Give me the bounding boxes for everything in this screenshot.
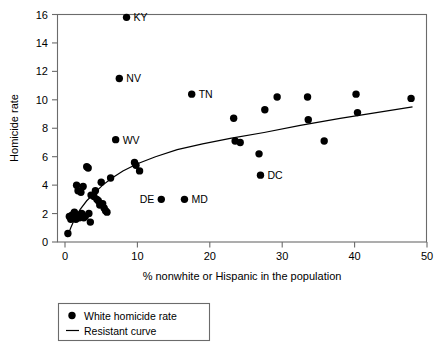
data-point [85,210,92,217]
legend-label-curve: Resistant curve [84,325,157,337]
point-label-tn: TN [199,88,213,100]
data-point [352,90,359,97]
data-point-nv [116,75,123,82]
x-tick-label: 30 [276,250,288,262]
x-tick-label: 20 [204,250,216,262]
x-tick-label: 40 [348,250,360,262]
chart-background [0,0,444,355]
legend: White homicide rate Resistant curve [59,304,210,341]
data-point [230,115,237,122]
data-point [92,187,99,194]
data-point [64,230,71,237]
data-point [107,174,114,181]
data-point [84,164,91,171]
y-tick-label: 8 [42,122,48,134]
y-tick-label: 2 [42,208,48,220]
point-label-dc: DC [267,169,283,181]
point-label-nv: NV [126,72,141,84]
y-tick-label: 6 [42,151,48,163]
chart-figure: 0246810121416 01020304050 Homicide rate … [0,0,444,355]
data-point [136,167,143,174]
data-point [87,218,94,225]
data-point [255,150,262,157]
data-point-wv [112,136,119,143]
scatter-plot: 0246810121416 01020304050 Homicide rate … [0,0,444,355]
point-label-wv: WV [123,134,140,146]
y-axis-title: Homicide rate [8,94,20,162]
data-point-ky [123,14,130,21]
data-point [304,93,311,100]
x-tick-label: 0 [62,250,68,262]
data-point [261,106,268,113]
legend-label-points: White homicide rate [84,310,177,322]
y-tick-label: 0 [42,236,48,248]
point-label-md: MD [191,193,208,205]
data-point-dc [257,171,264,178]
point-label-ky: KY [134,11,148,23]
data-point-de [158,196,165,203]
data-point [407,95,414,102]
data-point [273,93,280,100]
data-point [320,137,327,144]
y-tick-label: 14 [36,37,48,49]
legend-marker-point [68,312,75,319]
data-point [305,116,312,123]
data-point [103,208,110,215]
data-point [79,183,86,190]
y-tick-label: 12 [36,65,48,77]
y-tick-label: 4 [42,179,48,191]
data-point-tn [188,90,195,97]
x-tick-label: 50 [421,250,433,262]
x-axis-title: % nonwhite or Hispanic in the population [143,270,342,282]
data-point [98,179,105,186]
point-label-de: DE [140,193,155,205]
data-point-md [181,196,188,203]
y-tick-label: 10 [36,94,48,106]
y-tick-label: 16 [36,9,48,21]
x-tick-label: 10 [131,250,143,262]
data-point [237,139,244,146]
data-point [354,109,361,116]
